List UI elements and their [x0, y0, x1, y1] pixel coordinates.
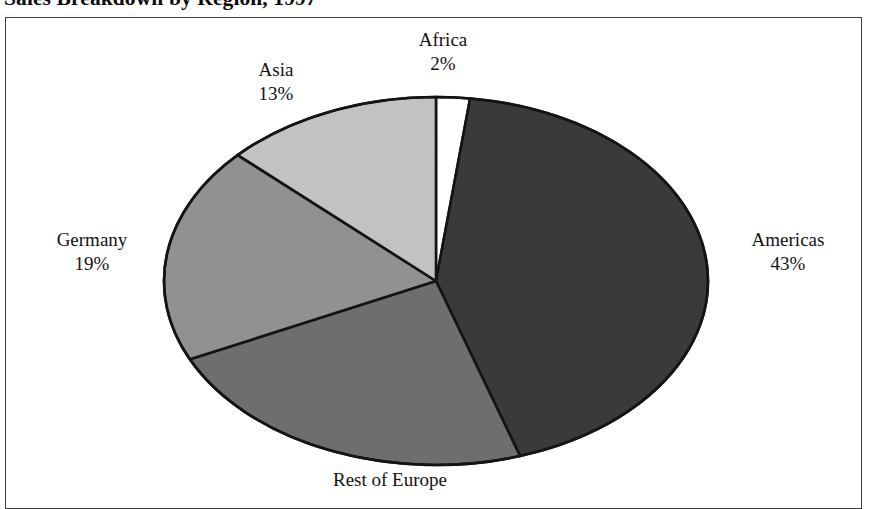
pie-label-rest-of-europe-name: Rest of Europe [280, 468, 500, 492]
pie-label-rest-of-europe: Rest of Europe [280, 468, 500, 492]
pie-label-germany-name: Germany [22, 228, 162, 252]
pie-label-africa-value: 2% [383, 52, 503, 76]
pie-label-africa: Africa 2% [383, 28, 503, 76]
pie-label-germany-value: 19% [22, 252, 162, 276]
pie-label-africa-name: Africa [383, 28, 503, 52]
pie-label-americas-name: Americas [718, 228, 858, 252]
pie-label-asia-name: Asia [216, 58, 336, 82]
pie-label-asia: Asia 13% [216, 58, 336, 106]
pie-label-americas: Americas 43% [718, 228, 858, 276]
pie-label-germany: Germany 19% [22, 228, 162, 276]
pie-label-asia-value: 13% [216, 82, 336, 106]
pie-label-americas-value: 43% [718, 252, 858, 276]
pie-slice-group [164, 97, 708, 465]
